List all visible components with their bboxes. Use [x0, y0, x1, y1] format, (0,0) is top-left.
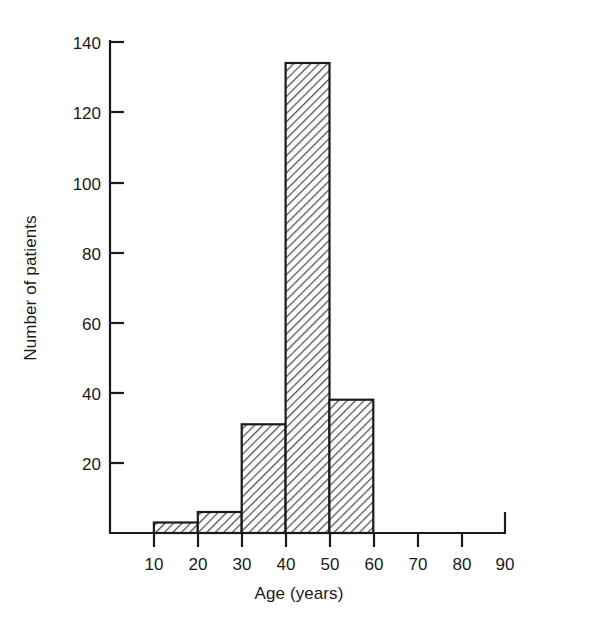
bar-30-40: [242, 424, 286, 533]
histogram-plot: 140 120 100 80 60 40 20 10 20 30 40 50 6…: [0, 0, 598, 636]
x-tick-label-10: 10: [145, 555, 164, 574]
bar-40-50: [286, 63, 330, 533]
histogram-figure: 140 120 100 80 60 40 20 10 20 30 40 50 6…: [0, 0, 598, 636]
x-tick-label-60: 60: [365, 555, 384, 574]
y-tick-label-60: 60: [82, 315, 101, 334]
y-tick-label-80: 80: [82, 245, 101, 264]
x-tick-label-50: 50: [321, 555, 340, 574]
y-axis-title: Number of patients: [21, 188, 41, 388]
bar-20-30: [198, 512, 242, 533]
y-tick-label-120: 120: [73, 104, 101, 123]
bar-50-60: [329, 400, 373, 533]
x-tick-label-90: 90: [496, 555, 515, 574]
x-axis-tick-labels: 10 20 30 40 50 60 70 80 90: [145, 555, 515, 574]
y-tick-label-40: 40: [82, 385, 101, 404]
y-tick-label-140: 140: [73, 34, 101, 53]
x-tick-label-20: 20: [189, 555, 208, 574]
x-tick-label-80: 80: [453, 555, 472, 574]
x-tick-label-70: 70: [409, 555, 428, 574]
x-tick-label-30: 30: [233, 555, 252, 574]
y-tick-label-20: 20: [82, 455, 101, 474]
bar-10-20: [154, 523, 198, 534]
y-tick-label-100: 100: [73, 175, 101, 194]
x-tick-label-40: 40: [277, 555, 296, 574]
x-axis-title: Age (years): [0, 584, 598, 604]
